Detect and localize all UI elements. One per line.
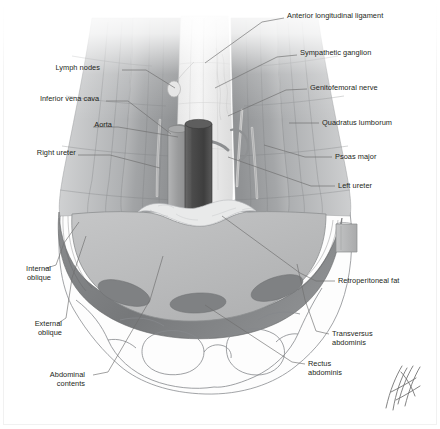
label-left-ureter: Left ureter [338, 181, 372, 190]
label-anterior-longitudinal-ligament: Anterior longitudinal ligament [287, 11, 383, 20]
label-lymph-nodes: Lymph nodes [0, 63, 100, 72]
label-quadratus-lumborum: Quadratus lumborum [322, 118, 392, 127]
cut-edge-tab [336, 223, 357, 253]
abdominal-aorta [185, 119, 212, 215]
label-right-ureter: Right ureter [0, 148, 76, 157]
label-abdominal-contents: Abdominal contents [0, 370, 85, 388]
label-aorta: Aorta [0, 120, 112, 129]
label-psoas-major: Psoas major [335, 152, 376, 161]
label-inferior-vena-cava: Inferior vena cava [0, 94, 99, 103]
label-retroperitoneal-fat: Retroperitoneal fat [338, 276, 399, 285]
artist-signature [386, 366, 420, 410]
anatomical-figure: Anterior longitudinal ligamentSympatheti… [0, 0, 440, 429]
label-transversus-abdominis: Transversus abdominis [332, 329, 373, 347]
label-genitofemoral-nerve: Genitofemoral nerve [310, 83, 378, 92]
label-rectus-abdominis: Rectus abdominis [308, 359, 342, 377]
label-internal-oblique: Internal oblique [0, 264, 51, 282]
label-sympathetic-ganglion: Sympathetic ganglion [300, 48, 371, 57]
label-external-oblique: External oblique [0, 319, 62, 337]
